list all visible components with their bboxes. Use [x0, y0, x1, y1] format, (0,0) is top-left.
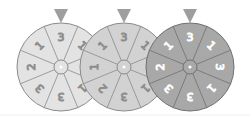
spinners-diagram: 313133213131321131313321	[0, 0, 250, 121]
sector-label: 2	[154, 64, 167, 71]
sector-label: 3	[58, 90, 65, 103]
sector-label: 3	[213, 64, 226, 71]
pointer-icon	[117, 9, 131, 23]
hub-dot	[188, 65, 191, 68]
hub-dot	[59, 65, 62, 68]
hub-dot	[122, 65, 125, 68]
sector-label: 3	[121, 90, 128, 103]
pointer-icon	[183, 9, 197, 23]
sector-label: 2	[25, 64, 38, 71]
pointer-icon	[54, 9, 68, 23]
sector-label: 1	[88, 64, 101, 71]
spinner: 31313321	[146, 9, 234, 111]
sector-label: 3	[121, 31, 128, 44]
sector-label: 3	[187, 31, 194, 44]
sector-label: 3	[187, 90, 194, 103]
sector-label: 3	[58, 31, 65, 44]
